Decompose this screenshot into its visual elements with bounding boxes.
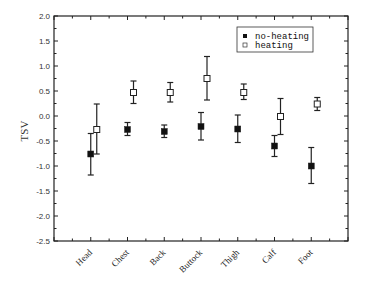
- data-point-back: [167, 90, 173, 96]
- x-tick-label-thigh: Thigh: [219, 247, 242, 270]
- legend-marker-heating: [243, 43, 247, 47]
- data-point-buttock: [204, 76, 210, 82]
- y-tick-label: 1.5: [39, 37, 51, 46]
- x-tick-label-foot: Foot: [296, 247, 315, 266]
- data-point-chest: [131, 90, 137, 96]
- data-point-back: [161, 129, 167, 135]
- data-point-buttock: [198, 124, 204, 130]
- x-tick-label-chest: Chest: [109, 247, 131, 269]
- x-tick-label-buttock: Buttock: [177, 247, 205, 275]
- y-axis-label: TSV: [18, 121, 30, 142]
- data-point-calf: [272, 143, 278, 149]
- x-tick-label-calf: Calf: [260, 247, 278, 265]
- y-tick-label: 0.0: [39, 112, 51, 121]
- legend-label-heating: heating: [255, 41, 293, 51]
- data-point-foot: [308, 163, 314, 169]
- data-point-head: [94, 127, 100, 133]
- tsv-errorbar-chart: 2.01.51.00.50.0-0.5-1.0-1.5-2.0-2.5 Head…: [0, 0, 367, 285]
- x-axis: HeadChestBackButtockThighCalfFoot: [54, 16, 348, 275]
- y-tick-label: 2.0: [39, 12, 51, 21]
- y-tick-label: -2.5: [36, 237, 50, 246]
- x-tick-label-back: Back: [148, 247, 169, 268]
- data-point-head: [88, 151, 94, 157]
- data-point-chest: [125, 127, 131, 133]
- data-series: [88, 57, 321, 184]
- y-tick-label: 0.5: [39, 87, 51, 96]
- legend-marker-no-heating: [243, 34, 247, 38]
- y-tick-label: -1.5: [36, 187, 50, 196]
- y-tick-label: -1.0: [36, 162, 50, 171]
- y-tick-label: -0.5: [36, 137, 50, 146]
- x-tick-label-head: Head: [74, 247, 95, 268]
- y-tick-label: -2.0: [36, 212, 50, 221]
- data-point-thigh: [241, 90, 247, 96]
- data-point-foot: [314, 101, 320, 107]
- data-point-thigh: [235, 126, 241, 132]
- y-tick-label: 1.0: [39, 62, 51, 71]
- series-heating: [94, 57, 321, 155]
- data-point-calf: [278, 114, 284, 120]
- legend: no-heating heating: [237, 27, 313, 52]
